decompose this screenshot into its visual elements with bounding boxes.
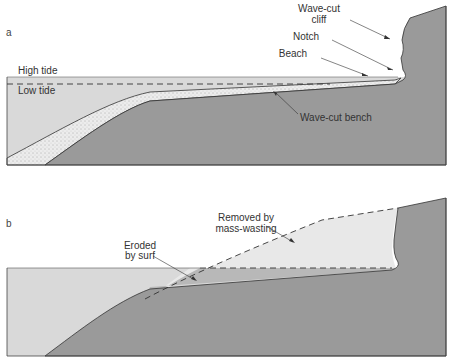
panel-b-letter: b <box>6 218 12 229</box>
panel-b: b Eroded by surf Removed by mass-wasting <box>6 198 446 356</box>
panel-a-letter: a <box>6 27 12 38</box>
wave-cut-cliff-label-2: cliff <box>312 14 327 25</box>
removed-label-1: Removed by <box>218 212 274 223</box>
notch-label: Notch <box>293 31 319 42</box>
low-tide-label: Low tide <box>18 85 56 96</box>
eroded-label-2: by surf <box>125 250 155 261</box>
wave-cut-bench-label: Wave-cut bench <box>300 112 372 123</box>
panel-a: a High tide Low tide Wave-cut cliff Notc… <box>6 3 446 165</box>
wave-cut-cliff-label-1: Wave-cut <box>298 3 340 14</box>
wave-cut-diagram: a High tide Low tide Wave-cut cliff Notc… <box>0 0 450 360</box>
high-tide-label: High tide <box>18 65 58 76</box>
removed-label-2: mass-wasting <box>215 223 276 234</box>
beach-label: Beach <box>279 48 307 59</box>
